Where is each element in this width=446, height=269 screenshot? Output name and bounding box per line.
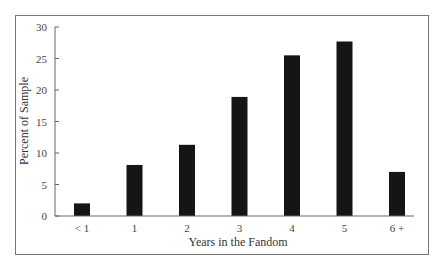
x-tick-label: 4 — [289, 222, 295, 234]
x-tick-label: 2 — [184, 222, 190, 234]
x-tick-label: < 1 — [75, 222, 89, 234]
x-tick-label: 1 — [132, 222, 138, 234]
x-tick-label: 3 — [237, 222, 243, 234]
y-tick-label: 20 — [36, 84, 48, 96]
bar — [337, 41, 353, 216]
x-axis-title: Years in the Fandom — [188, 235, 288, 249]
y-tick-label: 5 — [42, 179, 48, 191]
y-tick-label: 25 — [36, 53, 48, 65]
y-tick-label: 10 — [36, 147, 48, 159]
x-tick-label: 5 — [342, 222, 348, 234]
bars — [74, 41, 405, 216]
y-tick-label: 0 — [42, 210, 48, 222]
bar — [179, 145, 195, 216]
y-tick-label: 15 — [36, 116, 48, 128]
bar — [284, 55, 300, 216]
bar — [389, 172, 405, 216]
y-axis: 051015202530 — [36, 21, 59, 222]
bar — [232, 97, 248, 216]
bar-chart: 051015202530 < 1123456 + Percent of Samp… — [0, 0, 446, 269]
x-axis: < 1123456 + — [55, 216, 414, 234]
x-tick-label: 6 + — [390, 222, 404, 234]
y-axis-title: Percent of Sample — [17, 77, 31, 165]
y-tick-label: 30 — [36, 21, 48, 33]
bar — [127, 165, 143, 216]
bar — [74, 203, 90, 216]
